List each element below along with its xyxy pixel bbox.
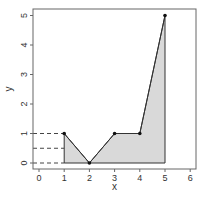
y-tick-label: 0 xyxy=(19,160,29,165)
y-tick-label: 3 xyxy=(19,72,29,77)
shaded-area xyxy=(64,16,165,164)
y-axis-label: y xyxy=(3,87,14,92)
dashed-reference-lines xyxy=(33,134,64,164)
fill-polygon xyxy=(64,16,165,164)
y-tick-label: 5 xyxy=(19,13,29,18)
data-point xyxy=(88,161,92,165)
chart: 0123456 012345 x y xyxy=(0,0,206,200)
x-axis-label: x xyxy=(112,181,117,192)
y-axis-ticks: 012345 xyxy=(19,13,33,166)
x-tick-label: 2 xyxy=(87,173,92,183)
x-tick-label: 4 xyxy=(137,173,142,183)
x-tick-label: 6 xyxy=(188,173,193,183)
x-tick-label: 5 xyxy=(162,173,167,183)
x-tick-label: 0 xyxy=(36,173,41,183)
y-tick-label: 4 xyxy=(19,42,29,47)
y-tick-label: 1 xyxy=(19,131,29,136)
data-point xyxy=(62,132,66,136)
data-point xyxy=(163,14,167,18)
x-tick-label: 1 xyxy=(62,173,67,183)
data-point xyxy=(138,132,142,136)
y-tick-label: 2 xyxy=(19,101,29,106)
data-point xyxy=(113,132,117,136)
